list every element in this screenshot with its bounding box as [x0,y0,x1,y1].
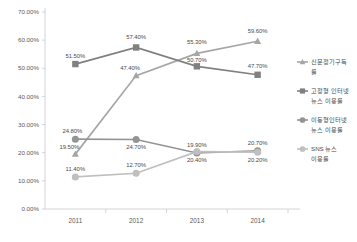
data-point-label: 19.90% [187,142,208,148]
x-axis-tick-label: 2011 [69,217,83,224]
y-axis-tick-label: 30.00% [18,121,39,128]
data-point-label: 51.50% [65,53,86,59]
y-axis-tick-label: 60.00% [18,36,39,43]
legend-marker-square-icon [300,88,305,93]
data-point-label: 11.40% [66,166,86,172]
data-point-label: 47.70% [248,63,269,69]
legend-label-line1: 고정형 인터넷 [311,87,349,95]
x-axis-tick-label: 2012 [129,217,144,224]
legend-label-line2: 뉴스 이용률 [311,97,343,105]
legend-label-line1: 신문정기구독 [311,58,347,66]
y-axis-tick-label: 10.00% [18,177,39,184]
legend-label-line2: 률 [311,68,317,75]
data-point-label: 12.70% [126,162,147,168]
data-point-label: 47.40% [120,65,141,71]
y-axis-tick-label: 40.00% [18,93,39,100]
legend-marker-circle-icon [300,146,306,152]
x-axis-tick-label: 2014 [251,217,266,224]
data-point-label: 20.20% [248,157,269,163]
data-point-label: 55.30% [187,39,208,45]
data-point-label: 19.50% [59,144,80,150]
data-point-label: 20.40% [187,157,208,163]
line-chart: 0.00%10.00%20.00%30.00%40.00%50.00%60.00… [0,0,357,242]
y-axis-tick-label: 20.00% [18,149,39,156]
legend-label-line1: SNS 뉴스 [311,145,337,153]
y-axis-tick-label: 0.00% [21,205,39,212]
y-axis-tick-label: 50.00% [18,64,39,71]
data-point-label: 50.70% [187,57,208,63]
legend-label-line2: 이용률 [311,155,329,163]
data-point-label: 57.40% [126,34,147,40]
data-point-label: 24.70% [126,144,147,150]
legend-marker-circle-icon [300,117,306,123]
chart-canvas: 0.00%10.00%20.00%30.00%40.00%50.00%60.00… [0,0,357,242]
data-point-label: 20.70% [248,140,269,146]
legend-label-line2: 뉴스 이용률 [311,126,343,134]
y-axis-tick-label: 70.00% [18,8,39,15]
x-axis-tick-label: 2013 [190,217,205,224]
legend-label-line1: 이동형인터넷 [311,116,347,124]
data-point-label: 59.60% [248,28,269,34]
data-point-label: 24.80% [62,128,83,134]
